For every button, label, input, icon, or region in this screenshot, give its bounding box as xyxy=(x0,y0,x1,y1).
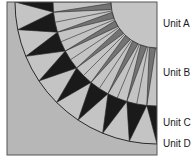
label-unit-d: Unit D xyxy=(163,138,191,149)
label-unit-a: Unit A xyxy=(163,18,190,29)
label-unit-c: Unit C xyxy=(163,117,191,128)
label-unit-b: Unit B xyxy=(163,67,190,78)
